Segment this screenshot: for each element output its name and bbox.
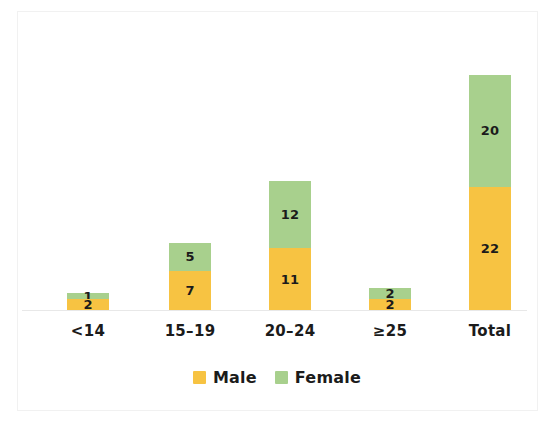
bar-value-male: 11 [281, 273, 300, 286]
x-tick-label: Total [430, 322, 550, 340]
bar-value-female: 5 [185, 250, 194, 263]
bar-group[interactable]: 12 11 [269, 181, 311, 310]
bar-value-female: 20 [481, 124, 500, 137]
chart-figure: 1 2 5 7 12 11 2 [0, 0, 554, 422]
bar-value-male: 22 [481, 242, 500, 255]
bar-segment-male[interactable]: 7 [169, 271, 211, 310]
bar-segment-male[interactable]: 11 [269, 248, 311, 310]
legend-label-male: Male [213, 368, 257, 387]
bar-value-male: 2 [385, 298, 394, 311]
legend-item-male[interactable]: Male [193, 368, 257, 387]
bar-segment-female[interactable]: 20 [469, 75, 511, 187]
bar-value-male: 7 [185, 284, 194, 297]
bar-group[interactable]: 2 2 [369, 288, 411, 310]
legend-swatch-female-icon [275, 371, 288, 384]
bar-value-male: 2 [83, 298, 92, 311]
bar-value-female: 12 [281, 208, 300, 221]
bar-segment-male[interactable]: 22 [469, 187, 511, 310]
bar-segment-male[interactable]: 2 [67, 299, 109, 310]
x-axis-line [22, 310, 527, 311]
legend-swatch-male-icon [193, 371, 206, 384]
bar-group[interactable]: 5 7 [169, 243, 211, 310]
bar-segment-female[interactable]: 5 [169, 243, 211, 271]
legend-item-female[interactable]: Female [275, 368, 361, 387]
legend-label-female: Female [295, 368, 361, 387]
bar-group[interactable]: 20 22 [469, 75, 511, 310]
bar-segment-male[interactable]: 2 [369, 299, 411, 310]
chart-legend: Male Female [0, 368, 554, 387]
bar-segment-female[interactable]: 12 [269, 181, 311, 248]
bar-group[interactable]: 1 2 [67, 293, 109, 310]
plot-area: 1 2 5 7 12 11 2 [0, 0, 554, 422]
